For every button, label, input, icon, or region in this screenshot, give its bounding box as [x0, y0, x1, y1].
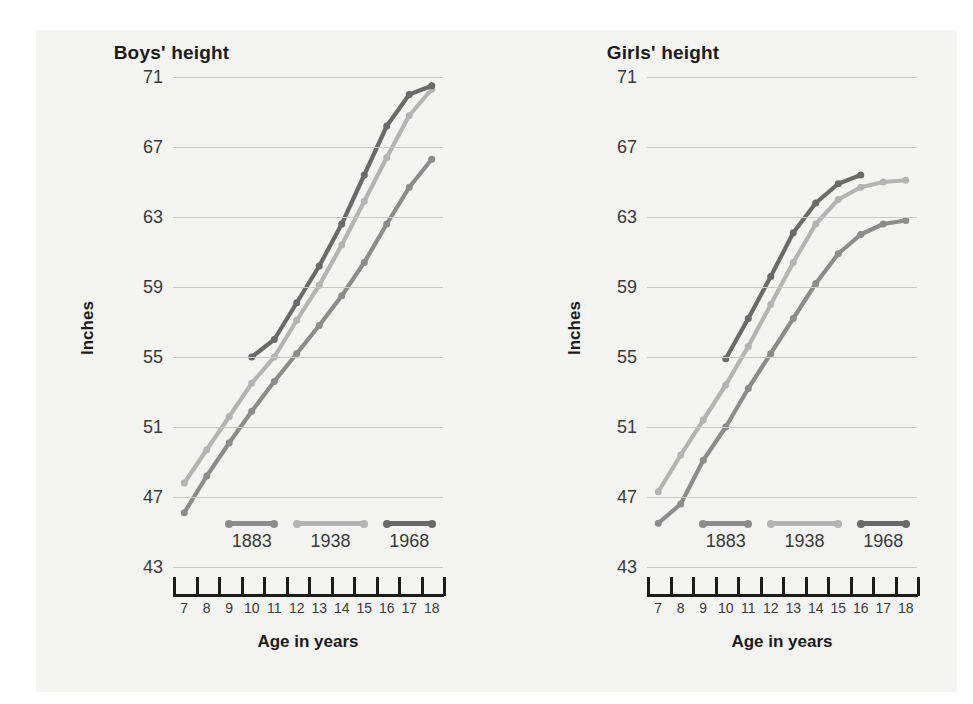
legend-cap-1883 [225, 520, 233, 528]
series-line-1883 [184, 159, 432, 513]
data-point-1938 [677, 452, 684, 459]
y-axis-label-girls: Inches [565, 301, 585, 355]
x-axis-tick [715, 577, 718, 596]
x-tick-label: 18 [421, 600, 443, 616]
chart-panel-girls: Girls' height Inches Age in years 188319… [487, 0, 973, 704]
x-tick-label: 17 [872, 600, 894, 616]
y-tick-label: 43 [599, 558, 637, 576]
data-point-1968 [406, 91, 413, 98]
x-tick-label: 14 [331, 600, 353, 616]
data-point-1883 [338, 292, 345, 299]
data-point-1883 [203, 473, 210, 480]
x-tick-label: 13 [308, 600, 330, 616]
legend-label-1883: 1883 [689, 531, 762, 552]
chart-title-girls: Girls' height [420, 42, 906, 64]
x-axis-tick [286, 577, 289, 596]
data-point-1883 [406, 184, 413, 191]
data-point-1968 [812, 200, 819, 207]
data-point-1968 [316, 263, 323, 270]
data-point-1968 [745, 315, 752, 322]
legend-cap-1883 [744, 520, 752, 528]
legend-cap-1968 [857, 520, 865, 528]
data-point-1938 [745, 343, 752, 350]
data-point-1938 [293, 317, 300, 324]
x-tick-label: 7 [647, 600, 669, 616]
data-point-1938 [700, 417, 707, 424]
data-point-1883 [316, 322, 323, 329]
data-point-1938 [203, 446, 210, 453]
data-point-1938 [338, 242, 345, 249]
gridline [173, 357, 443, 358]
data-point-1883 [677, 501, 684, 508]
legend-cap-1938 [293, 520, 301, 528]
data-point-1883 [383, 221, 390, 228]
data-point-1883 [767, 350, 774, 357]
x-axis-tick [760, 577, 763, 596]
x-tick-label: 10 [715, 600, 737, 616]
data-point-1968 [790, 229, 797, 236]
legend-cap-1968 [428, 520, 436, 528]
y-tick-label: 67 [125, 138, 163, 156]
data-point-1883 [857, 231, 864, 238]
y-tick-label: 63 [599, 208, 637, 226]
gridline [647, 357, 917, 358]
gridline [173, 77, 443, 78]
data-point-1968 [857, 172, 864, 179]
x-axis-tick [218, 577, 221, 596]
x-axis-tick [398, 577, 401, 596]
series-layer-girls [647, 70, 917, 570]
x-tick-label: 14 [805, 600, 827, 616]
x-axis-tick [241, 577, 244, 596]
data-point-1968 [428, 82, 435, 89]
chart-panel-boys: Boys' height Inches Age in years 1883193… [0, 0, 487, 704]
legend-cap-1938 [360, 520, 368, 528]
y-tick-label: 51 [125, 418, 163, 436]
x-axis-tick [670, 577, 673, 596]
legend-label-1968: 1968 [847, 531, 920, 552]
x-tick-label: 10 [241, 600, 263, 616]
x-axis-tick [917, 577, 920, 596]
x-tick-label: 8 [670, 600, 692, 616]
y-tick-label: 43 [125, 558, 163, 576]
gridline [173, 427, 443, 428]
y-tick-label: 67 [599, 138, 637, 156]
y-tick-label: 55 [599, 348, 637, 366]
data-point-1883 [812, 280, 819, 287]
legend-cap-1883 [699, 520, 707, 528]
data-point-1968 [767, 273, 774, 280]
data-point-1883 [293, 350, 300, 357]
plot-area-boys [173, 70, 443, 570]
data-point-1883 [835, 250, 842, 257]
x-tick-label: 18 [895, 600, 917, 616]
data-point-1938 [383, 154, 390, 161]
x-axis-tick [353, 577, 356, 596]
data-point-1883 [181, 509, 188, 516]
x-tick-label: 15 [827, 600, 849, 616]
x-tick-label: 16 [376, 600, 398, 616]
data-point-1883 [700, 457, 707, 464]
y-tick-label: 55 [125, 348, 163, 366]
gridline [647, 217, 917, 218]
x-axis-tick [827, 577, 830, 596]
gridline [173, 567, 443, 568]
x-axis-tick [421, 577, 424, 596]
legend-cap-1938 [767, 520, 775, 528]
legend-cap-1968 [383, 520, 391, 528]
legend-label-1938: 1938 [283, 531, 379, 552]
data-point-1883 [745, 385, 752, 392]
gridline [173, 497, 443, 498]
x-tick-label: 9 [692, 600, 714, 616]
x-tick-label: 9 [218, 600, 240, 616]
y-tick-label: 59 [599, 278, 637, 296]
y-tick-label: 59 [125, 278, 163, 296]
data-point-1938 [181, 480, 188, 487]
data-point-1883 [248, 408, 255, 415]
x-axis-tick [782, 577, 785, 596]
y-tick-label: 47 [125, 488, 163, 506]
y-tick-label: 51 [599, 418, 637, 436]
gridline [647, 147, 917, 148]
legend-swatch-1883 [703, 521, 748, 526]
data-point-1883 [361, 259, 368, 266]
data-point-1938 [722, 382, 729, 389]
x-tick-label: 7 [173, 600, 195, 616]
